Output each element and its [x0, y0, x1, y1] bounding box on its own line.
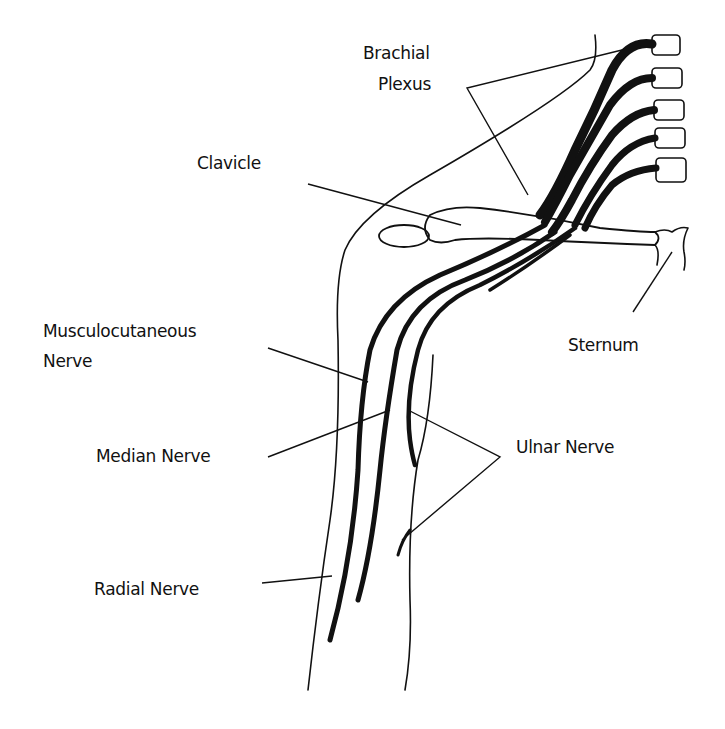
label-sternum: Sternum [568, 334, 639, 356]
musculocutaneous-leader [268, 348, 368, 382]
vertebra-5 [656, 158, 686, 182]
median-leader [268, 410, 390, 457]
label-clavicle: Clavicle [197, 152, 261, 174]
vertebra-4 [655, 128, 685, 148]
label-musculocutaneous-2: Nerve [43, 350, 92, 372]
sternum-leader [633, 252, 672, 312]
arm-nerve-illustration [0, 0, 725, 729]
label-ulnar-nerve: Ulnar Nerve [516, 436, 614, 458]
label-median-nerve: Median Nerve [96, 445, 210, 467]
label-brachial-plexus-2: Plexus [378, 73, 431, 95]
clavicle-head [379, 225, 429, 247]
clavicle-leader [308, 184, 461, 225]
label-radial-nerve: Radial Nerve [94, 578, 199, 600]
label-musculocutaneous-1: Musculocutaneous [43, 320, 196, 342]
sternum-bone [655, 228, 688, 271]
vertebra-2 [652, 68, 682, 88]
vertebra-3 [654, 100, 684, 120]
plexus-root-5 [585, 168, 656, 228]
arm-outline-left [308, 35, 596, 690]
ulnar-lower [398, 530, 410, 555]
label-brachial-plexus-1: Brachial [363, 42, 430, 64]
ulnar-leader [402, 410, 500, 540]
median-nerve [358, 232, 555, 600]
ulnar-nerve [409, 228, 575, 465]
